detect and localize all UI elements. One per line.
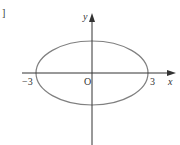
x-intercept-left-label: −3	[22, 76, 33, 87]
y-axis-arrow-icon	[89, 13, 95, 22]
y-axis-label: y	[82, 11, 88, 22]
corner-mark: ]	[2, 7, 5, 18]
x-intercept-right-label: 3	[150, 76, 155, 87]
origin-label: O	[84, 76, 91, 87]
ellipse-diagram: ] y x O −3 3	[0, 0, 180, 145]
x-axis-label: x	[167, 76, 173, 87]
